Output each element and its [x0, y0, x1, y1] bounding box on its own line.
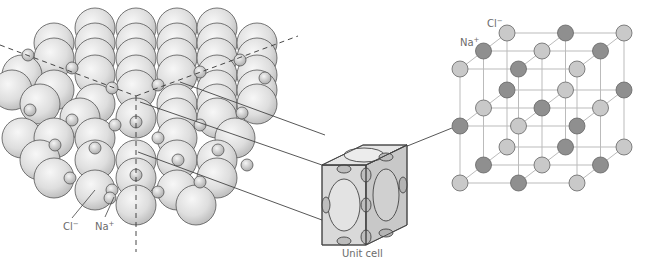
na-sphere [152, 132, 164, 144]
na-ion-node [476, 43, 492, 59]
cl-ion-node [558, 82, 574, 98]
ball-and-stick-lattice [452, 25, 632, 191]
na-sphere [49, 139, 61, 151]
na-sphere [172, 154, 184, 166]
cl-ion-node [452, 175, 468, 191]
na-ion-node [593, 157, 609, 173]
na-sphere [241, 159, 253, 171]
space-filling-model [0, 8, 277, 225]
cl-sphere [176, 185, 216, 225]
na-sphere [24, 104, 36, 116]
na-sphere [22, 49, 34, 61]
na-ion-node [511, 61, 527, 77]
cl-ion-node [452, 61, 468, 77]
na-sphere [194, 176, 206, 188]
lattice-cl-label: Cl− [487, 17, 503, 29]
cl-ion-node [593, 100, 609, 116]
na-ion-node [452, 118, 468, 134]
na-sphere [152, 186, 164, 198]
na-sphere [66, 114, 78, 126]
na-sphere [109, 119, 121, 131]
na-sphere [106, 82, 118, 94]
cl-ion-node [499, 25, 515, 41]
cl-ion-node [616, 25, 632, 41]
na-label: Na+ [95, 220, 115, 232]
na-ion-node [511, 175, 527, 191]
na-ion-node [569, 118, 585, 134]
na-ion-node [558, 139, 574, 155]
cl-ion-node [569, 175, 585, 191]
cl-ion-node [476, 100, 492, 116]
na-sphere [212, 144, 224, 156]
na-sphere [194, 66, 206, 78]
na-sphere [194, 119, 206, 131]
cl-ion-node [499, 139, 515, 155]
cl-ion-node [511, 118, 527, 134]
na-sphere [104, 192, 116, 204]
na-sphere [89, 142, 101, 154]
na-sphere [259, 72, 271, 84]
cl-label: Cl− [63, 220, 79, 232]
na-sphere [236, 107, 248, 119]
unit-cell-caption: Unit cell [342, 248, 383, 259]
na-ion-node [476, 157, 492, 173]
na-ion-node [616, 82, 632, 98]
nacl-diagram: Cl− Na+ Unit cell Cl− Na+ [0, 0, 650, 265]
na-ion-node [593, 43, 609, 59]
unit-cell [322, 145, 407, 245]
cl-ion-node [616, 139, 632, 155]
cl-ion-node [534, 157, 550, 173]
na-ion-node [499, 82, 515, 98]
na-ion-node [558, 25, 574, 41]
na-sphere [234, 54, 246, 66]
na-ion-node [534, 100, 550, 116]
na-sphere [64, 172, 76, 184]
cl-ion-node [569, 61, 585, 77]
cl-ion-node [534, 43, 550, 59]
